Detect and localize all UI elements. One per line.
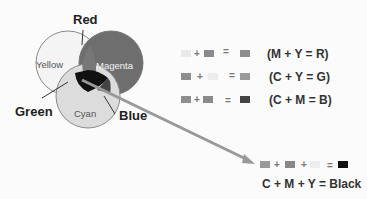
swatch-cyan — [260, 161, 270, 168]
equation-text-blue: (C + M = B) — [269, 93, 332, 107]
equation-text-green: (C + Y = G) — [269, 70, 330, 84]
swatch-blue — [240, 96, 250, 103]
swatch-red — [240, 50, 250, 57]
label-red: Red — [73, 12, 98, 27]
equation-text-red: (M + Y = R) — [267, 47, 329, 61]
plus-symbol: + — [197, 71, 203, 82]
swatch-yellow — [310, 161, 320, 168]
plus-symbol: + — [194, 94, 200, 105]
plus-symbol: + — [301, 159, 307, 170]
plus-symbol: + — [274, 159, 280, 170]
swatch-yellow — [181, 50, 191, 57]
label-magenta: Magenta — [96, 60, 133, 71]
equals-symbol: = — [229, 70, 235, 81]
equals-symbol: = — [225, 95, 231, 106]
swatch-magenta — [204, 50, 214, 57]
label-yellow: Yellow — [36, 59, 63, 70]
swatch-magenta — [285, 161, 295, 168]
plus-symbol: + — [194, 48, 200, 59]
equation-text-black: C + M + Y = Black — [262, 177, 361, 191]
swatch-green — [240, 73, 250, 80]
label-green: Green — [15, 104, 53, 119]
swatch-cyan — [181, 96, 191, 103]
swatch-black — [338, 161, 348, 168]
equals-symbol: = — [223, 46, 229, 57]
swatch-yellow — [208, 73, 218, 80]
arrow-head-icon — [242, 154, 255, 164]
swatch-magenta — [203, 96, 213, 103]
swatch-cyan — [181, 73, 191, 80]
label-cyan: Cyan — [74, 108, 96, 119]
equals-symbol: = — [327, 160, 333, 171]
label-blue: Blue — [119, 108, 147, 123]
